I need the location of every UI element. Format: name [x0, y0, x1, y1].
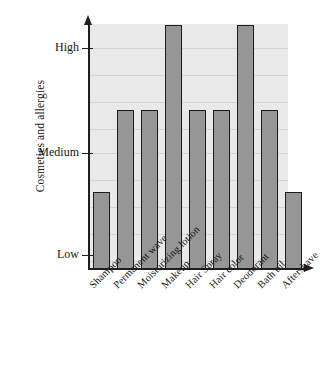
bar-chart: Cosmetics and allergies High Medium Low	[0, 0, 322, 379]
x-label-aftershave: Aftershave	[279, 249, 320, 290]
